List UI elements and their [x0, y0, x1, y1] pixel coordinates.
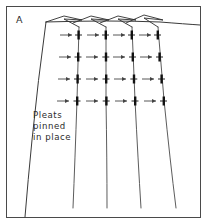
caption-line-2: pinned: [33, 121, 66, 131]
caption-line-3: in place: [33, 132, 71, 142]
panel-label: A: [16, 14, 23, 25]
pleat-diagram-panel: A Pleats pinned in place: [0, 0, 207, 224]
pleat-illustration: A Pleats pinned in place: [0, 0, 207, 224]
caption-line-1: Pleats: [33, 110, 62, 120]
